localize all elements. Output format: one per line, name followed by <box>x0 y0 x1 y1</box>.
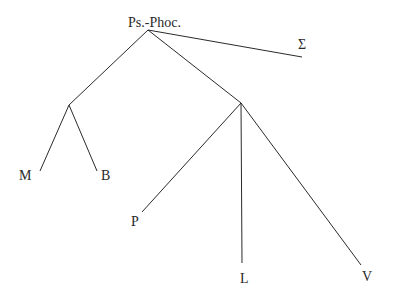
edge-right-L <box>241 103 242 263</box>
edge-root-left <box>69 30 148 105</box>
node-V-label: V <box>362 269 372 284</box>
edge-left-B <box>69 105 97 171</box>
edge-root-right <box>148 30 241 103</box>
node-sigma-label: Σ <box>298 37 306 52</box>
edge-root-sigma <box>148 30 302 57</box>
node-B-label: B <box>101 168 110 183</box>
node-root-label: Ps.-Phoc. <box>128 15 181 30</box>
node-P-label: P <box>131 214 139 229</box>
node-M-label: M <box>19 168 32 183</box>
edge-right-P <box>142 103 241 212</box>
edge-left-M <box>40 105 69 171</box>
edge-right-V <box>241 103 361 265</box>
node-L-label: L <box>240 271 249 286</box>
stemma-diagram: Ps.-Phoc. Σ M B P L V <box>0 0 395 297</box>
